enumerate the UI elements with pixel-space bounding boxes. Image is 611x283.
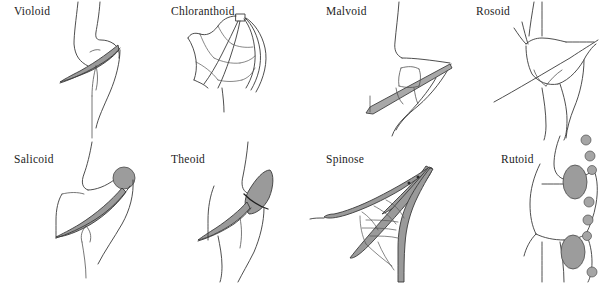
leaf-tooth-rosoid-icon (456, 0, 608, 141)
panel-chloranthoid: Chloranthoid (152, 0, 304, 141)
leaf-tooth-types-figure: Violoid (0, 0, 611, 283)
panel-spinose: Spinose (304, 142, 456, 283)
leaf-tooth-malvoid-icon (304, 0, 456, 141)
panel-rutoid: Rutoid (456, 142, 608, 283)
panel-theoid: Theoid (152, 142, 304, 283)
panel-violoid: Violoid (0, 0, 152, 141)
leaf-tooth-theoid-icon (152, 142, 304, 283)
panel-rosoid: Rosoid (456, 0, 608, 141)
leaf-tooth-salicoid-icon (0, 142, 152, 283)
panel-salicoid: Salicoid (0, 142, 152, 283)
leaf-tooth-rutoid-icon (456, 142, 608, 283)
leaf-tooth-spinose-icon (304, 142, 456, 283)
leaf-tooth-violoid-icon (0, 0, 152, 141)
panel-malvoid: Malvoid (304, 0, 456, 141)
leaf-tooth-chloranthoid-icon (152, 0, 304, 141)
